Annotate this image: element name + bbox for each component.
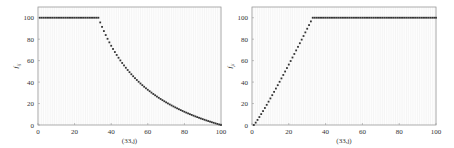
x-tick-label: 0: [36, 128, 40, 136]
data-markers: [253, 17, 437, 126]
x-axis-label: (33,j): [122, 137, 138, 145]
x-tick-label: 20: [285, 128, 293, 136]
chart-canvas: 020406080100020406080100(33,j)fij0204060…: [0, 0, 454, 148]
y-tick-label: 0: [31, 122, 35, 130]
grid-lines: [252, 7, 436, 125]
y-tick-label: 20: [27, 100, 35, 108]
x-tick-label: 40: [108, 128, 116, 136]
y-tick-label: 40: [241, 79, 249, 87]
y-tick-label: 40: [27, 79, 35, 87]
x-axis-label: (33,j): [336, 137, 352, 145]
y-axis-label: fji: [226, 63, 235, 68]
x-tick-label: 60: [359, 128, 367, 136]
x-tick-label: 20: [71, 128, 79, 136]
x-tick-label: 80: [181, 128, 189, 136]
y-tick-label: 60: [241, 57, 249, 65]
x-tick-label: 100: [431, 128, 442, 136]
y-tick-label: 20: [241, 100, 249, 108]
x-tick-label: 80: [396, 128, 404, 136]
y-tick-label: 100: [24, 14, 35, 22]
y-tick-label: 60: [27, 57, 35, 65]
x-tick-label: 0: [250, 128, 254, 136]
y-tick-label: 80: [27, 36, 35, 44]
y-axis-label: fij: [12, 63, 21, 68]
y-tick-label: 100: [238, 14, 249, 22]
x-tick-label: 100: [216, 128, 227, 136]
plot-panel-2: 020406080100020406080100(33,j)fji: [226, 7, 442, 145]
y-tick-label: 0: [245, 122, 249, 130]
data-markers: [39, 17, 222, 126]
plot-panel-1: 020406080100020406080100(33,j)fij: [12, 7, 227, 145]
figure: 020406080100020406080100(33,j)fij0204060…: [0, 0, 454, 148]
grid-lines: [38, 7, 221, 125]
x-tick-label: 40: [322, 128, 330, 136]
x-tick-label: 60: [144, 128, 152, 136]
y-tick-label: 80: [241, 36, 249, 44]
